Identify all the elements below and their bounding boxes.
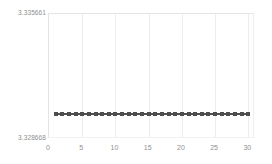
x-axis-tick-label: 5 bbox=[79, 144, 83, 151]
y-axis-label-min: 3.328668 bbox=[18, 134, 46, 141]
data-point-marker[interactable] bbox=[213, 112, 217, 116]
data-point-marker[interactable] bbox=[80, 112, 84, 116]
data-point-marker[interactable] bbox=[140, 112, 144, 116]
data-point-marker[interactable] bbox=[240, 112, 244, 116]
data-point-marker[interactable] bbox=[200, 112, 204, 116]
data-point-marker[interactable] bbox=[206, 112, 210, 116]
data-point-marker[interactable] bbox=[180, 112, 184, 116]
x-axis-tick-label: 30 bbox=[243, 144, 251, 151]
data-point-marker[interactable] bbox=[60, 112, 64, 116]
data-point-marker[interactable] bbox=[153, 112, 157, 116]
data-point-marker[interactable] bbox=[193, 112, 197, 116]
x-axis-tick-label: 25 bbox=[210, 144, 218, 151]
data-point-marker[interactable] bbox=[133, 112, 137, 116]
data-point-marker[interactable] bbox=[187, 112, 191, 116]
line-chart: 3.335661 3.328668 051015202530 bbox=[0, 0, 272, 164]
data-point-marker[interactable] bbox=[167, 112, 171, 116]
series-layer bbox=[49, 14, 253, 137]
data-point-marker[interactable] bbox=[147, 112, 151, 116]
x-axis-tick-label: 10 bbox=[111, 144, 119, 151]
data-point-marker[interactable] bbox=[94, 112, 98, 116]
plot-area bbox=[48, 13, 254, 138]
x-axis-tick-label: 20 bbox=[177, 144, 185, 151]
data-point-marker[interactable] bbox=[173, 112, 177, 116]
data-point-marker[interactable] bbox=[226, 112, 230, 116]
data-point-marker[interactable] bbox=[246, 112, 250, 116]
data-point-marker[interactable] bbox=[54, 112, 58, 116]
data-point-marker[interactable] bbox=[74, 112, 78, 116]
data-point-marker[interactable] bbox=[113, 112, 117, 116]
data-point-marker[interactable] bbox=[160, 112, 164, 116]
x-axis-tick-label: 15 bbox=[144, 144, 152, 151]
data-point-marker[interactable] bbox=[100, 112, 104, 116]
data-point-marker[interactable] bbox=[120, 112, 124, 116]
data-point-marker[interactable] bbox=[87, 112, 91, 116]
data-point-marker[interactable] bbox=[220, 112, 224, 116]
data-point-marker[interactable] bbox=[107, 112, 111, 116]
x-axis-tick-label: 0 bbox=[46, 144, 50, 151]
y-axis-label-max: 3.335661 bbox=[18, 9, 46, 16]
data-point-marker[interactable] bbox=[67, 112, 71, 116]
data-point-marker[interactable] bbox=[233, 112, 237, 116]
data-point-marker[interactable] bbox=[127, 112, 131, 116]
